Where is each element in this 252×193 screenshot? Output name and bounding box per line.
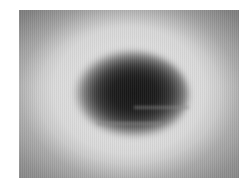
scanline-texture xyxy=(19,10,239,178)
image-frame xyxy=(19,10,239,178)
